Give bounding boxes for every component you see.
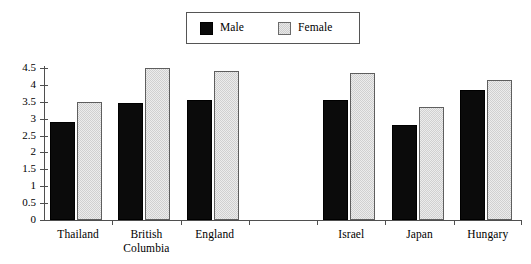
y-axis-tick: 0 [40, 220, 48, 221]
y-axis-tick-label: 4 [31, 78, 37, 90]
x-axis-tick [249, 220, 250, 225]
y-axis-tick-label: 3.5 [22, 95, 36, 107]
bar-female [77, 102, 102, 220]
legend-swatch-male-icon [200, 22, 213, 35]
x-axis-tick [521, 220, 522, 225]
category-label: England [181, 228, 249, 242]
category-label: British Columbia [112, 228, 180, 255]
category-label: Japan [385, 228, 453, 242]
bar-female [419, 107, 444, 220]
legend-entry-male: Male [200, 22, 244, 35]
bar-female [214, 71, 239, 220]
y-axis-tick-label: 1 [31, 179, 37, 191]
y-axis-tick-label: 0.5 [22, 196, 36, 208]
y-axis-tick: 4.5 [40, 68, 48, 69]
y-axis-tick-label: 2 [31, 145, 37, 157]
y-axis-tick-label: 4.5 [22, 61, 36, 73]
legend-entries: Male Female [187, 13, 359, 43]
y-axis-tick-label: 0 [31, 213, 37, 225]
chart-legend: Male Female [186, 12, 360, 44]
bar-male [323, 100, 348, 220]
bar-male [118, 103, 143, 220]
bar-female [487, 80, 512, 220]
y-axis-line [44, 66, 45, 220]
bar-female [145, 68, 170, 220]
y-axis-tick: 2.5 [40, 136, 48, 137]
y-axis-tick-label: 1.5 [22, 162, 36, 174]
bar-male [187, 100, 212, 220]
legend-label-female: Female [298, 22, 332, 34]
x-axis-tick [112, 220, 113, 225]
bar-chart: Male Female 00.511.522.533.544.5 Thailan… [0, 0, 531, 264]
bar-male [460, 90, 485, 220]
legend-swatch-female-icon [278, 22, 291, 35]
category-label: Thailand [44, 228, 112, 242]
bar-female [350, 73, 375, 220]
legend-entry-female: Female [278, 22, 332, 35]
bar-male [392, 125, 417, 220]
y-axis-tick-label: 3 [31, 112, 37, 124]
y-axis-tick-label: 2.5 [22, 129, 36, 141]
y-axis-tick: 1.5 [40, 169, 48, 170]
plot-area: 00.511.522.533.544.5 ThailandBritish Col… [44, 68, 522, 220]
category-label: Israel [317, 228, 385, 242]
x-axis-line [44, 220, 522, 221]
legend-label-male: Male [220, 22, 244, 34]
y-axis-tick: 0.5 [40, 203, 48, 204]
y-axis-tick: 3.5 [40, 102, 48, 103]
x-axis-tick [181, 220, 182, 225]
x-axis-tick [454, 220, 455, 225]
category-label: Hungary [454, 228, 522, 242]
x-axis-tick [385, 220, 386, 225]
y-axis-tick: 3 [40, 119, 48, 120]
y-axis-tick: 2 [40, 152, 48, 153]
y-axis-tick: 1 [40, 186, 48, 187]
y-axis-tick: 4 [40, 85, 48, 86]
x-axis-tick [317, 220, 318, 225]
bar-male [50, 122, 75, 220]
